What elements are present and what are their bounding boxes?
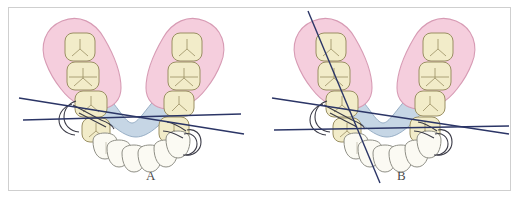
panel-label-a: A: [146, 168, 156, 184]
survey-line-a-2: [23, 114, 241, 120]
figure-root: A: [0, 0, 519, 199]
panel-a-illustration: [9, 8, 259, 190]
anterior-incisors-b: [344, 131, 441, 172]
anterior-incisors-a: [93, 131, 190, 172]
figure-frame: A: [8, 7, 511, 191]
panel-label-b: B: [397, 168, 406, 184]
panel-b-illustration: [260, 8, 510, 190]
